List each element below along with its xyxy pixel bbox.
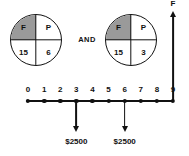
right-circle-pv-label: P: [141, 24, 146, 32]
right-tvm-circle: F P 15 3: [105, 14, 157, 66]
timeline-tick-dot: [42, 99, 46, 103]
timeline-tick-dot: [155, 99, 159, 103]
right-circle-quadrant-bottom-left: 15: [106, 40, 131, 65]
timeline-tick-label: 8: [155, 86, 159, 94]
timeline-tick-label: 7: [139, 86, 143, 94]
cash-outflow-arrowhead-icon: [73, 126, 79, 132]
left-circle-fv-label: F: [21, 24, 26, 32]
left-tvm-circle: F P 15 6: [10, 14, 62, 66]
right-circle-horizontal-divider: [106, 39, 156, 40]
left-circle-quadrant-top-right: P: [36, 15, 61, 40]
left-circle-quadrant-bottom-right: 6: [36, 40, 61, 65]
left-circle-periods-label: 6: [46, 49, 50, 57]
and-operator-label: AND: [73, 35, 101, 44]
cash-outflow-stem: [124, 100, 126, 128]
left-circle-quadrant-bottom-left: 15: [11, 40, 36, 65]
timeline-axis: [28, 100, 173, 102]
timeline-tick-dot: [90, 99, 94, 103]
future-value-arrow-stem: [172, 14, 174, 100]
timeline-tick-dot: [106, 99, 110, 103]
future-value-arrowhead-icon: [170, 11, 176, 17]
left-circle-horizontal-divider: [11, 39, 61, 40]
timeline-tick-dot: [139, 99, 143, 103]
timeline-tick-label: 5: [106, 86, 110, 94]
left-circle-quadrant-top-left: F: [11, 15, 36, 40]
left-circle-rate-label: 15: [19, 49, 28, 57]
timeline-tick-label: 2: [58, 86, 62, 94]
timeline-tick-dot: [26, 99, 30, 103]
timeline-tick-label: 6: [122, 86, 126, 94]
right-circle-quadrant-bottom-right: 3: [131, 40, 156, 65]
future-value-label: F: [171, 0, 176, 8]
right-circle-quadrant-top-right: P: [131, 15, 156, 40]
cash-outflow-amount-label: $2500: [65, 138, 87, 146]
timeline-tick-label: 4: [90, 86, 94, 94]
cash-outflow-amount-label: $2500: [114, 138, 136, 146]
timeline-tick-dot: [58, 99, 62, 103]
cash-outflow-stem: [75, 100, 77, 128]
right-circle-rate-label: 15: [114, 49, 123, 57]
cash-outflow-arrowhead-icon: [122, 126, 128, 132]
timeline-tick-label: 1: [42, 86, 46, 94]
timeline-tick-label: 0: [26, 86, 30, 94]
diagram-canvas: F P 15 6 AND F P 15 3 0123456789 $2500$2…: [0, 0, 189, 156]
right-circle-fv-label: F: [116, 24, 121, 32]
right-circle-periods-label: 3: [141, 49, 145, 57]
right-circle-quadrant-top-left: F: [106, 15, 131, 40]
left-circle-pv-label: P: [46, 24, 51, 32]
timeline-tick-label: 3: [74, 86, 78, 94]
